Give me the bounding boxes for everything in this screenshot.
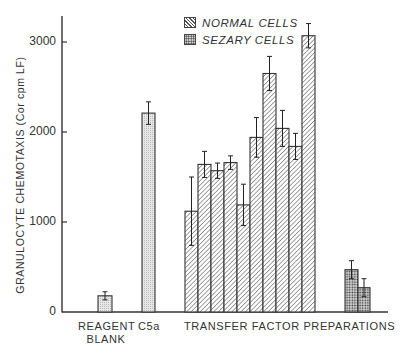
legend: NORMAL CELLS SEZARY CELLS — [184, 14, 298, 48]
x-category-reagent-line2: BLANK — [78, 333, 134, 346]
bar-8 — [250, 137, 263, 312]
legend-item-normal: NORMAL CELLS — [184, 14, 298, 31]
legend-label-normal: NORMAL CELLS — [202, 17, 298, 29]
bar-11 — [289, 146, 302, 312]
y-tick-label-2000: 2000 — [16, 124, 56, 138]
y-axis-label: GRANULOCYTE CHEMOTAXIS (Cor cpm LF) — [14, 56, 26, 293]
x-category-transfer-factor: TRANSFER FACTOR PREPARATIONS — [184, 320, 374, 332]
bar-2 — [142, 113, 155, 312]
x-category-c5a: C5a — [136, 320, 162, 332]
chart-canvas — [0, 0, 402, 356]
y-tick-label-3000: 3000 — [16, 34, 56, 48]
x-category-reagent: REAGENT BLANK — [78, 320, 134, 346]
y-tick-label-0: 0 — [16, 304, 56, 318]
legend-label-sezary: SEZARY CELLS — [202, 34, 294, 46]
bar-9 — [263, 74, 276, 313]
hatch-swatch-icon — [184, 17, 196, 28]
bar-10 — [276, 128, 289, 312]
bar-4 — [198, 164, 211, 312]
legend-item-sezary: SEZARY CELLS — [184, 31, 298, 48]
x-category-reagent-line1: REAGENT — [78, 320, 134, 333]
bar-12 — [302, 36, 315, 312]
bar-5 — [211, 171, 224, 312]
bars-group — [98, 24, 370, 312]
crosshatch-swatch-icon — [184, 34, 196, 45]
bar-6 — [224, 163, 237, 312]
y-tick-label-1000: 1000 — [16, 214, 56, 228]
